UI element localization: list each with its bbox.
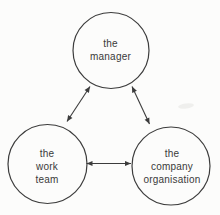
edge-manager-company-organisation: [132, 87, 150, 125]
company-organisation-label-line-1: the: [165, 148, 180, 159]
arrowhead-right-icon: [125, 161, 131, 166]
work-team-label-line-3: team: [35, 174, 58, 185]
relationship-triangle-diagram: the manager the work team the company or…: [0, 0, 220, 215]
scan-smudge-artifact: [178, 102, 195, 109]
edge-manager-work-team-line: [67, 87, 90, 122]
arrowhead-down-icon: [67, 115, 72, 121]
manager-label-line-1: the: [103, 38, 118, 49]
arrowhead-up-icon: [85, 87, 90, 93]
manager-node-label: the manager: [90, 38, 131, 62]
manager-label-line-2: manager: [90, 51, 131, 62]
edge-manager-company-organisation-line: [132, 87, 150, 125]
company-organisation-label-line-3: organisation: [144, 174, 201, 185]
edge-work-team-company-organisation: [87, 161, 132, 166]
diagram-canvas: the manager the work team the company or…: [0, 0, 220, 215]
edge-manager-work-team: [67, 87, 90, 122]
work-team-label-line-2: work: [35, 161, 59, 172]
company-organisation-label-line-2: company: [151, 161, 193, 172]
work-team-node-label: the work team: [35, 148, 59, 185]
work-team-label-line-1: the: [40, 148, 55, 159]
company-organisation-node-label: the company organisation: [144, 148, 201, 185]
